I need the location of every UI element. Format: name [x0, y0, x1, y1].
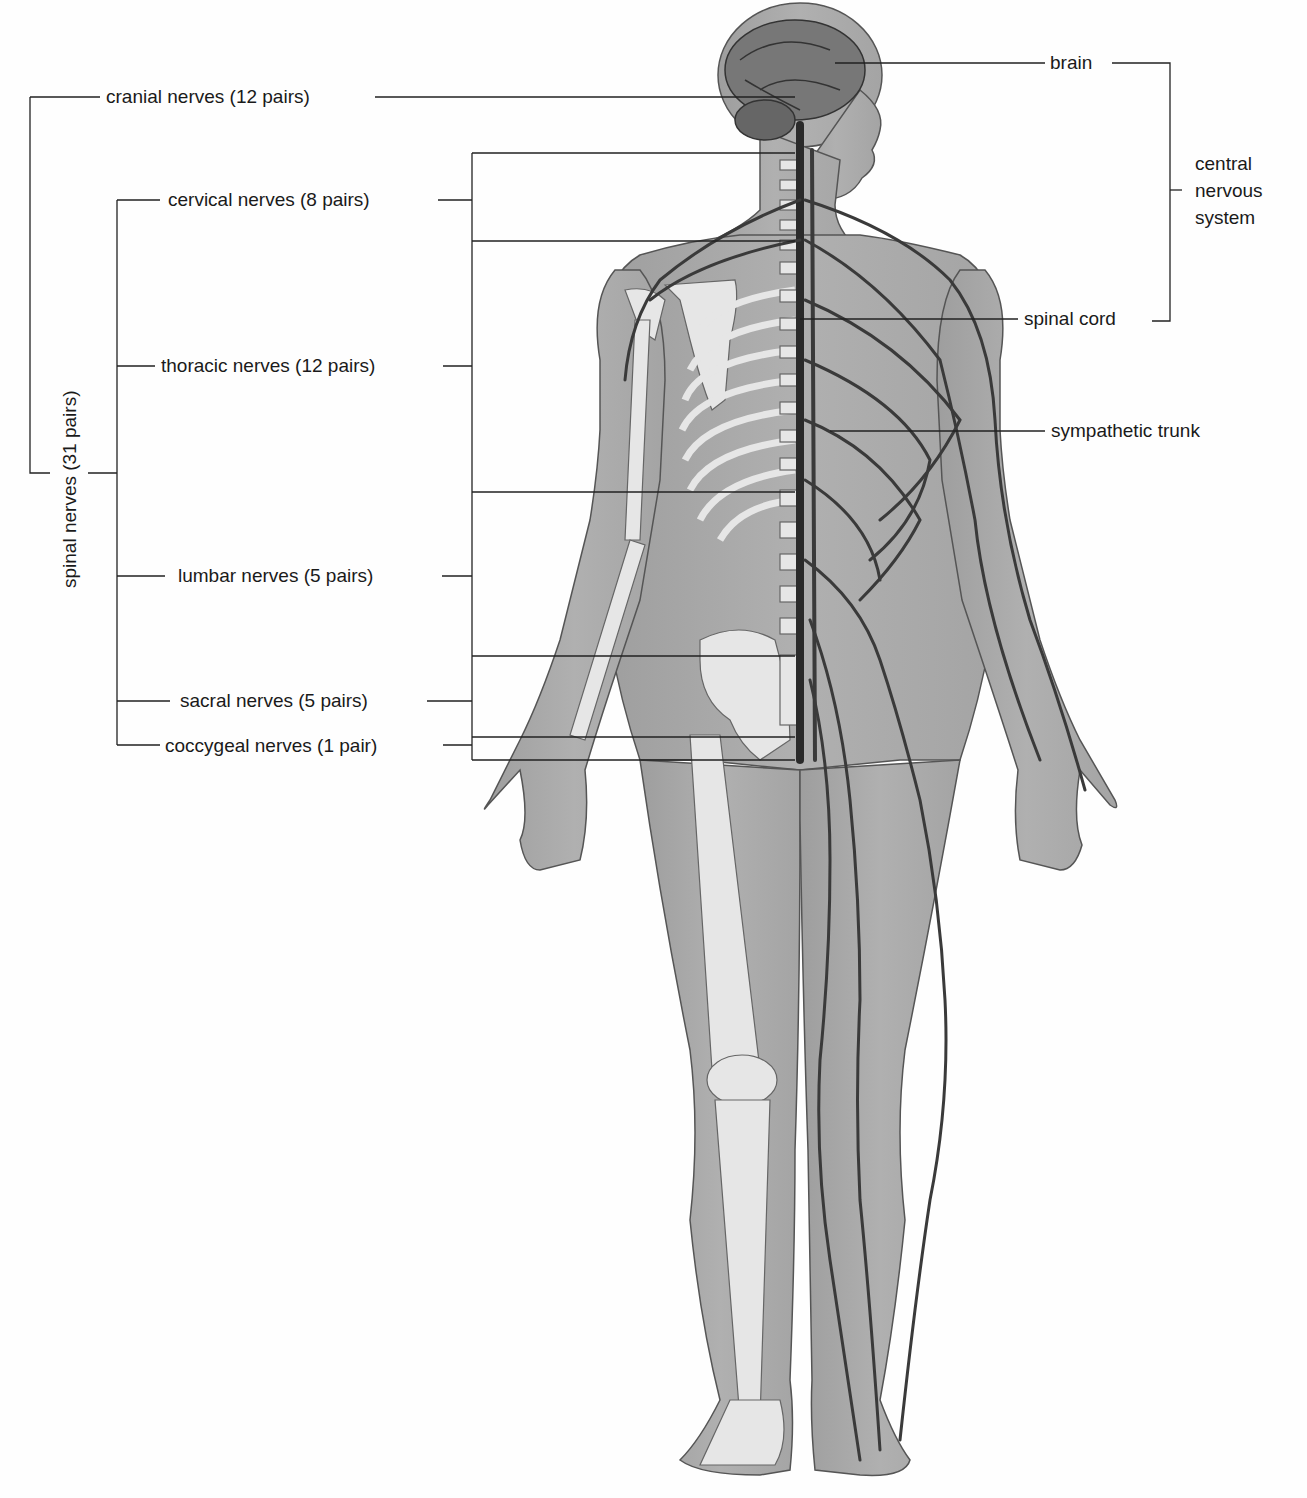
- label-cranial-nerves: cranial nerves (12 pairs): [104, 86, 312, 108]
- label-coccygeal-nerves: coccygeal nerves (1 pair): [163, 735, 379, 757]
- label-spinal-cord: spinal cord: [1022, 308, 1118, 330]
- label-sympathetic-trunk: sympathetic trunk: [1049, 420, 1202, 442]
- label-cervical-nerves: cervical nerves (8 pairs): [166, 189, 372, 211]
- label-sacral-nerves: sacral nerves (5 pairs): [178, 690, 370, 712]
- label-thoracic-nerves: thoracic nerves (12 pairs): [159, 355, 377, 377]
- label-central-nervous-system: central nervous system: [1193, 150, 1307, 231]
- nervous-system-diagram: cranial nerves (12 pairs) cervical nerve…: [0, 0, 1307, 1498]
- label-lumbar-nerves: lumbar nerves (5 pairs): [176, 565, 375, 587]
- label-brain: brain: [1048, 52, 1094, 74]
- label-spinal-nerves-group: spinal nerves (31 pairs): [59, 387, 81, 592]
